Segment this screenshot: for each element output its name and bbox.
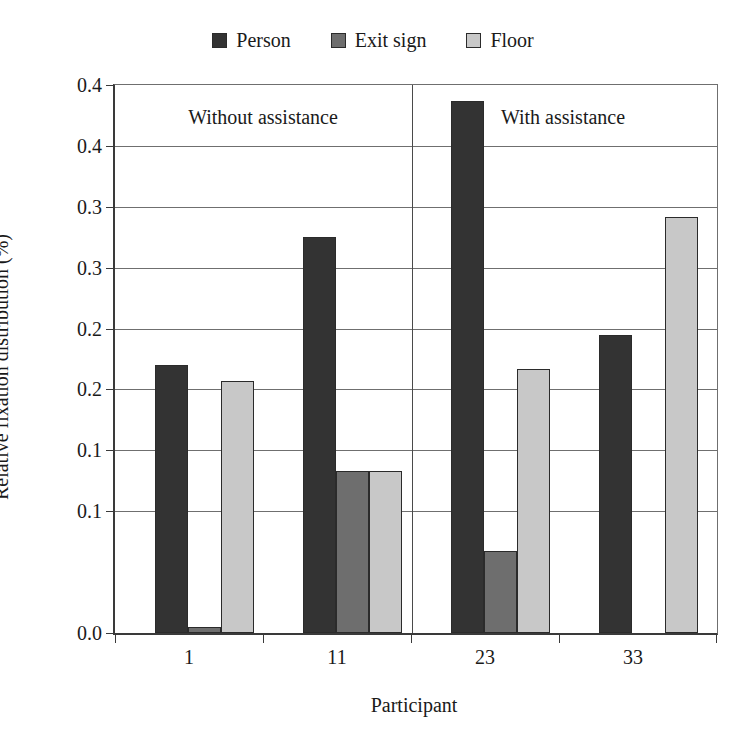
legend-label: Exit sign xyxy=(355,30,427,50)
y-tick-mark xyxy=(106,450,115,451)
bar xyxy=(155,365,188,633)
x-tick-label: 11 xyxy=(327,646,346,668)
gridline xyxy=(115,329,717,330)
x-axis-title-text: Participant xyxy=(371,694,458,716)
bar xyxy=(665,217,698,633)
gridline xyxy=(115,146,717,147)
y-tick-label: 0.2 xyxy=(77,319,102,339)
y-tick-mark xyxy=(106,633,115,634)
x-tick-label: 23 xyxy=(475,646,495,668)
y-tick-label: 0.3 xyxy=(77,197,102,217)
y-tick-mark xyxy=(106,511,115,512)
y-tick-mark xyxy=(106,85,115,86)
y-tick-mark xyxy=(106,207,115,208)
x-tick-label: 33 xyxy=(623,646,643,668)
y-axis-title: Relative fixation distribution (%) xyxy=(0,0,38,734)
legend-entry: Exit sign xyxy=(331,30,427,50)
panel-label-with-assistance: With assistance xyxy=(501,106,625,128)
y-tick-label: 0.0 xyxy=(77,623,102,643)
x-tick-mark xyxy=(716,633,717,643)
bar xyxy=(517,369,550,633)
panel-label-without-assistance: Without assistance xyxy=(188,106,338,128)
y-tick-mark xyxy=(106,146,115,147)
legend-swatch-icon xyxy=(212,33,227,48)
x-tick-mark xyxy=(115,633,116,643)
chart-legend: PersonExit signFloor xyxy=(0,30,746,50)
y-tick-label: 0.4 xyxy=(77,75,102,95)
y-tick-label: 0.3 xyxy=(77,258,102,278)
legend-swatch-icon xyxy=(466,33,481,48)
legend-swatch-icon xyxy=(331,33,346,48)
bar xyxy=(369,471,402,633)
x-tick-mark xyxy=(559,633,560,643)
y-tick-label: 0.2 xyxy=(77,379,102,399)
panel-divider xyxy=(412,85,413,633)
bar xyxy=(303,237,336,633)
x-axis-title: Participant xyxy=(113,694,715,716)
legend-entry: Person xyxy=(212,30,290,50)
y-axis-title-text: Relative fixation distribution (%) xyxy=(0,234,12,500)
x-tick-label: 1 xyxy=(184,646,194,668)
bar xyxy=(188,627,221,633)
bar xyxy=(451,101,484,633)
y-tick-mark xyxy=(106,268,115,269)
bar xyxy=(484,551,517,633)
bar-chart-figure: PersonExit signFloor Relative fixation d… xyxy=(0,0,746,734)
y-tick-label: 0.1 xyxy=(77,501,102,521)
bar xyxy=(336,471,369,633)
y-tick-mark xyxy=(106,389,115,390)
plot-area: 0.40.40.30.30.20.20.10.10.0 Without assi… xyxy=(113,84,718,635)
gridline xyxy=(115,207,717,208)
x-tick-mark xyxy=(411,633,412,643)
gridline xyxy=(115,268,717,269)
x-tick-mark xyxy=(263,633,264,643)
legend-label: Person xyxy=(236,30,290,50)
bar xyxy=(599,335,632,633)
y-tick-mark xyxy=(106,329,115,330)
bar xyxy=(221,381,254,633)
legend-label: Floor xyxy=(490,30,533,50)
y-tick-label: 0.4 xyxy=(77,136,102,156)
legend-entry: Floor xyxy=(466,30,533,50)
y-tick-label: 0.1 xyxy=(77,440,102,460)
